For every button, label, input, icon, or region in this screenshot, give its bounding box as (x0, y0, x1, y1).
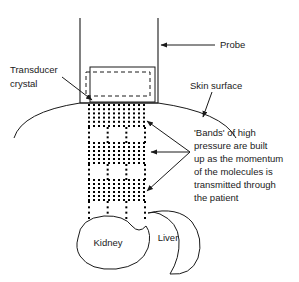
molecule-dot (113, 117, 115, 119)
molecule-dot (113, 199, 115, 201)
molecule-dot (88, 217, 90, 219)
molecule-dot (88, 187, 90, 189)
molecule-dot (88, 164, 90, 166)
molecule-dot (113, 104, 115, 106)
molecule-dot (103, 121, 105, 123)
molecule-dot (143, 154, 145, 156)
molecule-dot (113, 183, 115, 185)
transducer-label-line2: crystal (10, 78, 37, 89)
molecule-dot (93, 199, 95, 201)
molecule-dot (133, 121, 135, 123)
band-arrow-bottom (147, 152, 190, 191)
molecule-dot (93, 142, 95, 144)
molecule-dot (138, 125, 140, 127)
molecule-dot (138, 117, 140, 119)
molecule-dot (113, 108, 115, 110)
molecule-dot (103, 183, 105, 185)
molecule-dot (103, 146, 105, 148)
molecule-dot (108, 108, 110, 110)
molecule-dot (123, 195, 125, 197)
molecule-dot (143, 121, 145, 123)
molecule-dot (98, 150, 100, 152)
molecule-dot (93, 183, 95, 185)
molecule-dot (144, 206, 146, 208)
molecule-dot (143, 162, 145, 164)
molecule-dot (98, 125, 100, 127)
molecule-dot (93, 146, 95, 148)
molecule-dot (88, 132, 90, 134)
molecule-dot (88, 117, 90, 119)
skin-surface-label: Skin surface (190, 80, 242, 91)
molecule-dot (103, 162, 105, 164)
kidney-label: Kidney (93, 237, 122, 248)
molecule-dot (138, 191, 140, 193)
molecule-dot (88, 125, 90, 127)
molecule-dot (108, 187, 110, 189)
molecule-dot (103, 142, 105, 144)
molecule-dot (88, 121, 90, 123)
molecule-dot (123, 104, 125, 106)
molecule-dot (143, 199, 145, 201)
molecule-dot (133, 150, 135, 152)
molecule-dot (88, 173, 90, 175)
molecule-dot (128, 195, 130, 197)
molecule-dot (128, 121, 130, 123)
molecule-dot (93, 150, 95, 152)
molecule-dot (98, 121, 100, 123)
molecule-dot (144, 217, 146, 219)
molecule-dot (118, 142, 120, 144)
molecule-dot (144, 132, 146, 134)
molecule-dot (88, 179, 90, 181)
molecule-dot (103, 154, 105, 156)
molecule-dot (108, 179, 110, 181)
molecule-dot (133, 162, 135, 164)
molecule-dot (123, 121, 125, 123)
molecule-dot (128, 117, 130, 119)
skin-surface-arrow (203, 92, 212, 117)
molecule-dot (88, 146, 90, 148)
molecule-dot (113, 150, 115, 152)
molecule-dot (123, 158, 125, 160)
molecule-dot (103, 108, 105, 110)
molecule-dot (93, 125, 95, 127)
molecule-dot (138, 108, 140, 110)
molecule-dot (98, 191, 100, 193)
molecule-dot (128, 125, 130, 127)
molecule-dot (133, 125, 135, 127)
molecule-dot (88, 195, 90, 197)
molecule-dot (118, 104, 120, 106)
molecule-dot (138, 104, 140, 106)
molecule-dot (128, 108, 130, 110)
molecule-dot (118, 150, 120, 152)
molecule-dot (128, 179, 130, 181)
molecule-dot (128, 183, 130, 185)
molecule-dot (98, 146, 100, 148)
molecule-dot (133, 117, 135, 119)
molecule-dot (128, 150, 130, 152)
molecule-dot (108, 150, 110, 152)
molecule-dot (123, 112, 125, 114)
molecule-dot (123, 150, 125, 152)
molecule-dot (98, 183, 100, 185)
molecule-dot (103, 125, 105, 127)
molecule-dot (128, 162, 130, 164)
molecule-dot (88, 136, 90, 138)
molecule-dot (93, 121, 95, 123)
molecule-dot (143, 112, 145, 114)
molecule-dot (118, 191, 120, 193)
molecule-dot (108, 162, 110, 164)
annotation-line-5: transmitted through (194, 179, 276, 190)
molecule-dot (93, 112, 95, 114)
molecule-dot (143, 191, 145, 193)
annotation-line-1: 'Bands' of high (194, 127, 256, 138)
molecule-dot (98, 112, 100, 114)
liver-shape (148, 211, 200, 274)
molecule-dot (144, 164, 146, 166)
molecule-dot (107, 132, 109, 134)
molecule-dot (128, 191, 130, 193)
molecule-dot (88, 169, 90, 171)
molecule-dot (88, 142, 90, 144)
molecule-dot (108, 112, 110, 114)
molecule-dot (143, 179, 145, 181)
molecule-dot (128, 146, 130, 148)
